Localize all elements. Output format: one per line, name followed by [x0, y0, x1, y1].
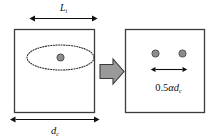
inclusion-dot-right [179, 50, 186, 57]
right-cross-section-group: 0.5αdc [126, 30, 205, 113]
diagram-canvas: Li dc 0.5α [0, 0, 216, 137]
top-dimension-label-subscript: i [65, 8, 67, 14]
transform-arrow-group [100, 59, 124, 84]
top-dimension-label: Li [59, 2, 68, 14]
spacing-dimension-label: 0.5αdc [155, 82, 182, 94]
bottom-dimension-label: dc [51, 125, 59, 137]
left-cross-section-group [15, 30, 95, 113]
bottom-dimension-group: dc [16, 120, 95, 138]
bottom-dimension-label-subscript: c [56, 131, 59, 137]
left-cross-section-square [15, 30, 95, 113]
inclusion-dot-left [152, 50, 159, 57]
right-cross-section-square [126, 30, 205, 113]
transform-arrow-icon [100, 59, 124, 84]
figure-container: Li dc 0.5α [0, 0, 216, 137]
inclusion-dot-center [57, 54, 64, 61]
top-dimension-group: Li [35, 2, 92, 19]
spacing-label-prefix: 0.5 [155, 82, 168, 93]
spacing-label-subscript: c [179, 88, 182, 94]
